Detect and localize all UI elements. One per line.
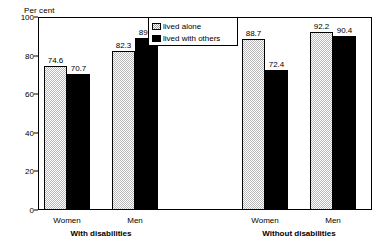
y-axis-tick-mark bbox=[34, 94, 38, 95]
y-axis-tick-label: 100 bbox=[8, 13, 34, 22]
y-axis-tick-mark bbox=[34, 210, 38, 211]
bar-value-label: 82.3 bbox=[111, 41, 136, 50]
bar-chart: Per cent 020406080100 74.670.782.389.388… bbox=[0, 0, 376, 249]
bar-value-label: 90.4 bbox=[332, 26, 357, 35]
y-axis-tick-label: 40 bbox=[8, 128, 34, 137]
bar-value-label: 88.7 bbox=[241, 29, 266, 38]
y-axis-tick-mark bbox=[34, 132, 38, 133]
bar-lived-with-others bbox=[67, 74, 90, 210]
y-axis-tick-mark bbox=[34, 17, 38, 18]
legend-swatch-icon bbox=[152, 35, 161, 42]
x-axis-category-label: Women bbox=[251, 216, 278, 225]
bar-value-label: 74.6 bbox=[43, 56, 68, 65]
y-axis-tick-mark bbox=[34, 55, 38, 56]
legend-item-lived-alone: lived alone bbox=[152, 20, 234, 32]
bar-value-label: 72.4 bbox=[264, 60, 289, 69]
x-axis-category-label: Women bbox=[53, 216, 80, 225]
x-axis-group-label: Without disabilities bbox=[262, 229, 335, 238]
bar-value-label: 70.7 bbox=[66, 64, 91, 73]
y-axis-tick-label: 60 bbox=[8, 90, 34, 99]
legend-item-label: lived with others bbox=[163, 34, 220, 43]
x-axis-group-label: With disabilities bbox=[71, 229, 132, 238]
bar-value-label: 92.2 bbox=[309, 22, 334, 31]
bar-lived-alone bbox=[44, 66, 67, 210]
legend-item-lived-with-others: lived with others bbox=[152, 32, 234, 44]
legend-item-label: lived alone bbox=[163, 22, 201, 31]
legend: lived alone lived with others bbox=[148, 17, 238, 46]
bar-lived-alone bbox=[242, 39, 265, 210]
legend-swatch-icon bbox=[152, 23, 161, 30]
bar-lived-with-others bbox=[265, 70, 288, 210]
x-axis-category-label: Men bbox=[325, 216, 341, 225]
bar-lived-alone bbox=[310, 32, 333, 210]
y-axis-tick-label: 0 bbox=[8, 206, 34, 215]
bar-lived-with-others bbox=[333, 36, 356, 210]
y-axis-tick-label: 80 bbox=[8, 51, 34, 60]
y-axis-tick-mark bbox=[34, 171, 38, 172]
bar-lived-with-others bbox=[135, 38, 158, 210]
y-axis-tick-label: 20 bbox=[8, 167, 34, 176]
bar-lived-alone bbox=[112, 51, 135, 210]
x-axis-category-label: Men bbox=[127, 216, 143, 225]
